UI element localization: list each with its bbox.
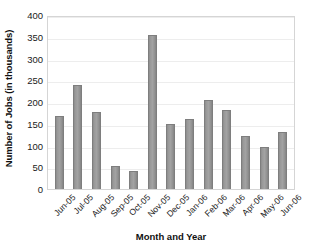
bar[interactable] [204, 100, 213, 189]
y-tick-label: 350 [27, 33, 43, 43]
y-tick-label: 150 [27, 120, 43, 130]
bar-chart-figure: Number of Jobs (in thousands) 4003503002… [0, 0, 311, 249]
bar-slot [87, 17, 106, 189]
bar-slot [124, 17, 143, 189]
x-tick-label: Jun-06 [278, 193, 303, 218]
bar[interactable] [129, 171, 138, 189]
x-tick-slot: Apr-06 [237, 191, 256, 227]
bar[interactable] [148, 35, 157, 189]
bar[interactable] [55, 116, 64, 189]
bar-slot [273, 17, 292, 189]
bar[interactable] [111, 166, 120, 189]
bar[interactable] [278, 132, 287, 189]
y-tick-label: 300 [27, 55, 43, 65]
x-tick-slot: Oct-05 [124, 191, 143, 227]
bar-slot [106, 17, 125, 189]
bar[interactable] [260, 147, 269, 189]
bar-slot [255, 17, 274, 189]
x-tick-slot: Dec-05 [162, 191, 181, 227]
x-tick-slot: Jul-05 [68, 191, 87, 227]
y-axis-tick-labels: 400350300250200150100500 [17, 16, 45, 190]
x-tick-slot: Jan-06 [180, 191, 199, 227]
y-tick-label: 0 [38, 185, 43, 195]
y-tick-label: 200 [27, 98, 43, 108]
bar-slot [143, 17, 162, 189]
bar[interactable] [92, 112, 101, 189]
bar[interactable] [73, 85, 82, 189]
y-tick-label: 400 [27, 11, 43, 21]
bar[interactable] [241, 136, 250, 190]
bar-slot [199, 17, 218, 189]
y-tick-label: 250 [27, 77, 43, 87]
x-tick-slot: Sep-05 [105, 191, 124, 227]
x-tick-slot: Mar-06 [218, 191, 237, 227]
bar-slot [50, 17, 69, 189]
bar-slot [217, 17, 236, 189]
y-tick-label: 100 [27, 142, 43, 152]
x-tick-slot: Aug-05 [87, 191, 106, 227]
y-axis-title: Number of Jobs (in thousands) [0, 0, 18, 196]
bar[interactable] [166, 124, 175, 189]
x-tick-slot: Feb-06 [199, 191, 218, 227]
plot-area [47, 16, 295, 190]
bar-slot [180, 17, 199, 189]
bar-slot [162, 17, 181, 189]
x-tick-slot: May-06 [255, 191, 274, 227]
x-tick-slot: Jun-05 [49, 191, 68, 227]
x-tick-slot: Nov-05 [143, 191, 162, 227]
x-tick-slot: Jun-06 [274, 191, 293, 227]
y-tick-label: 50 [32, 164, 43, 174]
x-axis-tick-labels: Jun-05Jul-05Aug-05Sep-05Oct-05Nov-05Dec-… [47, 191, 295, 227]
bar[interactable] [185, 119, 194, 189]
bar-slot [236, 17, 255, 189]
bars-layer [48, 17, 294, 189]
bar-slot [69, 17, 88, 189]
x-axis-title: Month and Year [47, 231, 295, 242]
y-axis-title-label: Number of Jobs (in thousands) [4, 29, 15, 167]
bar[interactable] [222, 110, 231, 189]
